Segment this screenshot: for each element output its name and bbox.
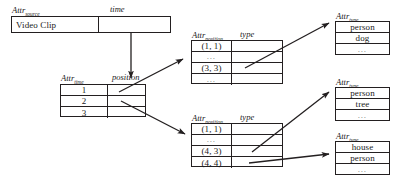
table-row: ... xyxy=(336,44,389,55)
source-table-header-attr: Attrsource xyxy=(12,5,40,17)
type-cell-value: ... xyxy=(336,110,389,121)
type-cell-value: ... xyxy=(336,44,389,55)
type-table-bottom: house person ... xyxy=(335,141,390,175)
position-cell-value: (1, 1) xyxy=(192,124,232,134)
position-cell-type xyxy=(232,52,282,62)
table-row: ... xyxy=(192,135,282,146)
table-row: house xyxy=(336,142,389,153)
type-table-middle: person tree ... xyxy=(335,87,390,121)
type-table-top: person dog ... xyxy=(335,21,390,55)
position-cell-value: (1, 1) xyxy=(192,41,232,51)
type-cell-value: ... xyxy=(336,164,389,175)
diagram-canvas: Attrsource time Video Clip Attrtime posi… xyxy=(0,0,400,189)
position-cell-type xyxy=(232,124,282,134)
table-row: (1, 1) xyxy=(192,124,282,135)
source-cell-video-clip: Video Clip xyxy=(12,17,99,32)
position-table-lower: (1, 1) ... (4, 3) (4, 4) xyxy=(191,123,283,167)
table-row: ... xyxy=(336,164,389,175)
position-cell-type xyxy=(232,41,282,51)
position-cell-type xyxy=(232,74,282,85)
position-cell-type xyxy=(232,157,282,168)
table-row: person xyxy=(336,88,389,99)
position-cell-value: ... xyxy=(192,74,232,85)
time-cell-position xyxy=(108,107,145,118)
position-cell-type xyxy=(232,146,282,156)
position-cell-value: (4, 4) xyxy=(192,157,232,168)
source-cell-time xyxy=(99,17,170,32)
table-row: person xyxy=(336,22,389,33)
position-cell-type xyxy=(232,63,282,73)
table-row: 1 xyxy=(61,85,145,96)
type-cell-value: dog xyxy=(336,33,389,43)
position-table-upper: (1, 1) ... (3, 3) ... xyxy=(191,40,283,84)
time-table: 1 2 3 xyxy=(60,84,146,117)
time-cell-position xyxy=(108,85,145,95)
position-table-lower-header-type: type xyxy=(240,112,254,122)
table-row: Video Clip xyxy=(12,17,170,32)
position-table-upper-header-type: type xyxy=(240,29,254,39)
position-cell-value: (4, 3) xyxy=(192,146,232,156)
table-row: (4, 4) xyxy=(192,157,282,168)
source-table-header-time: time xyxy=(110,4,125,14)
table-row: ... xyxy=(192,52,282,63)
table-row: dog xyxy=(336,33,389,44)
source-table: Video Clip xyxy=(11,16,171,33)
table-row: (1, 1) xyxy=(192,41,282,52)
table-row: person xyxy=(336,153,389,164)
table-row: tree xyxy=(336,99,389,110)
type-cell-value: house xyxy=(336,142,389,152)
position-cell-value: ... xyxy=(192,135,232,145)
time-cell-value: 1 xyxy=(61,85,108,95)
type-cell-value: tree xyxy=(336,99,389,109)
type-cell-value: person xyxy=(336,88,389,98)
time-cell-value: 3 xyxy=(61,107,108,118)
table-row: (4, 3) xyxy=(192,146,282,157)
type-cell-value: person xyxy=(336,153,389,163)
table-row: (3, 3) xyxy=(192,63,282,74)
time-table-header-attr: Attrtime xyxy=(61,73,84,85)
time-cell-value: 2 xyxy=(61,96,108,106)
table-row: ... xyxy=(336,110,389,121)
table-row: ... xyxy=(192,74,282,85)
table-row: 2 xyxy=(61,96,145,107)
type-cell-value: person xyxy=(336,22,389,32)
table-row: 3 xyxy=(61,107,145,118)
position-cell-value: ... xyxy=(192,52,232,62)
time-table-header-position: position xyxy=(112,72,139,82)
time-cell-position xyxy=(108,96,145,106)
position-cell-value: (3, 3) xyxy=(192,63,232,73)
position-cell-type xyxy=(232,135,282,145)
